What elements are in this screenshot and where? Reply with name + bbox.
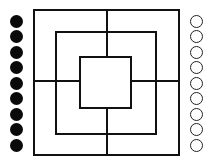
black-piece[interactable]: [10, 139, 23, 152]
black-piece[interactable]: [10, 61, 23, 74]
white-piece[interactable]: [190, 30, 203, 43]
white-piece[interactable]: [190, 46, 203, 59]
black-piece[interactable]: [10, 46, 23, 59]
white-piece[interactable]: [190, 139, 203, 152]
inner-square: [79, 56, 132, 109]
black-piece[interactable]: [10, 30, 23, 43]
bottom-connector: [106, 108, 108, 156]
game-title: Nine Men's Morris: [0, 0, 1, 1]
black-piece[interactable]: [10, 15, 23, 28]
black-piece[interactable]: [10, 123, 23, 136]
game-board-area: Nine Men's Morris Black pieces White pie…: [0, 0, 217, 166]
white-piece[interactable]: [190, 77, 203, 90]
white-piece[interactable]: [190, 108, 203, 121]
black-piece[interactable]: [10, 77, 23, 90]
black-piece[interactable]: [10, 92, 23, 105]
top-connector: [106, 9, 108, 57]
white-piece[interactable]: [190, 15, 203, 28]
left-connector: [33, 80, 80, 82]
white-piece[interactable]: [190, 123, 203, 136]
white-piece[interactable]: [190, 61, 203, 74]
right-connector: [131, 80, 180, 82]
white-piece[interactable]: [190, 92, 203, 105]
black-piece[interactable]: [10, 108, 23, 121]
